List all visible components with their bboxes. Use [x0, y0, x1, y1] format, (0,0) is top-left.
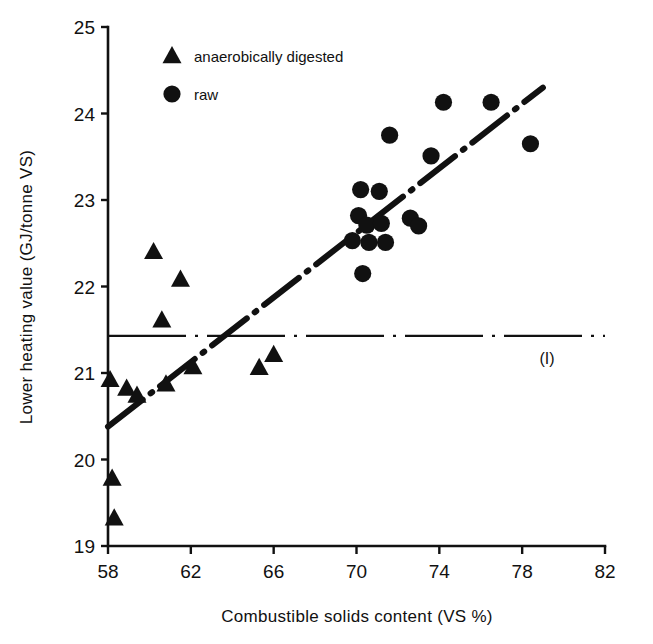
y-tick-label: 25: [74, 17, 95, 38]
data-point-circle: [522, 135, 539, 152]
legend: anaerobically digestedraw: [163, 46, 344, 103]
annotations: (I): [539, 350, 554, 367]
y-tick-label: 19: [74, 536, 95, 557]
x-axis-label: Combustible solids content (VS %): [221, 607, 493, 626]
annotation-label: (I): [539, 350, 554, 367]
data-point-circle: [354, 265, 371, 282]
figure-container: 1920212223242558626670747882 anaerobical…: [0, 0, 653, 644]
data-point-circle: [410, 217, 427, 234]
data-point-circle: [371, 183, 388, 200]
y-tick-label: 21: [74, 363, 95, 384]
x-tick-label: 62: [180, 561, 201, 582]
y-tick-label: 23: [74, 190, 95, 211]
x-tick-label: 74: [429, 561, 451, 582]
legend-label: anaerobically digested: [194, 48, 343, 65]
data-point-circle: [373, 215, 390, 232]
data-point-circle: [435, 94, 452, 111]
axes: [101, 27, 605, 554]
data-point-circle: [422, 147, 439, 164]
x-tick-label: 82: [594, 561, 615, 582]
legend-label: raw: [194, 86, 218, 103]
data-point-circle: [358, 216, 375, 233]
data-point-triangle: [171, 270, 190, 287]
data-point-circle: [352, 181, 369, 198]
y-tick-label: 24: [74, 104, 96, 125]
data-point-triangle: [152, 310, 171, 327]
tick-labels: 1920212223242558626670747882: [74, 17, 616, 582]
data-points: [101, 94, 539, 526]
data-point-triangle: [103, 469, 122, 486]
data-point-circle: [483, 94, 500, 111]
data-point-triangle: [264, 345, 283, 362]
y-axis-label: Lower heating value (GJ/tonne VS): [17, 150, 36, 425]
legend-triangle-icon: [163, 46, 182, 63]
scatter-chart: 1920212223242558626670747882 anaerobical…: [0, 0, 653, 644]
data-point-circle: [377, 234, 394, 251]
x-tick-label: 58: [97, 561, 118, 582]
data-point-circle: [344, 232, 361, 249]
legend-circle-icon: [163, 85, 180, 102]
x-tick-label: 78: [512, 561, 533, 582]
data-point-circle: [360, 234, 377, 251]
x-tick-label: 66: [263, 561, 284, 582]
trend-line: [108, 88, 543, 427]
data-point-triangle: [144, 242, 163, 259]
x-tick-label: 70: [346, 561, 367, 582]
data-point-circle: [381, 127, 398, 144]
y-tick-label: 22: [74, 277, 95, 298]
regression-line: [108, 88, 543, 427]
y-tick-label: 20: [74, 450, 95, 471]
